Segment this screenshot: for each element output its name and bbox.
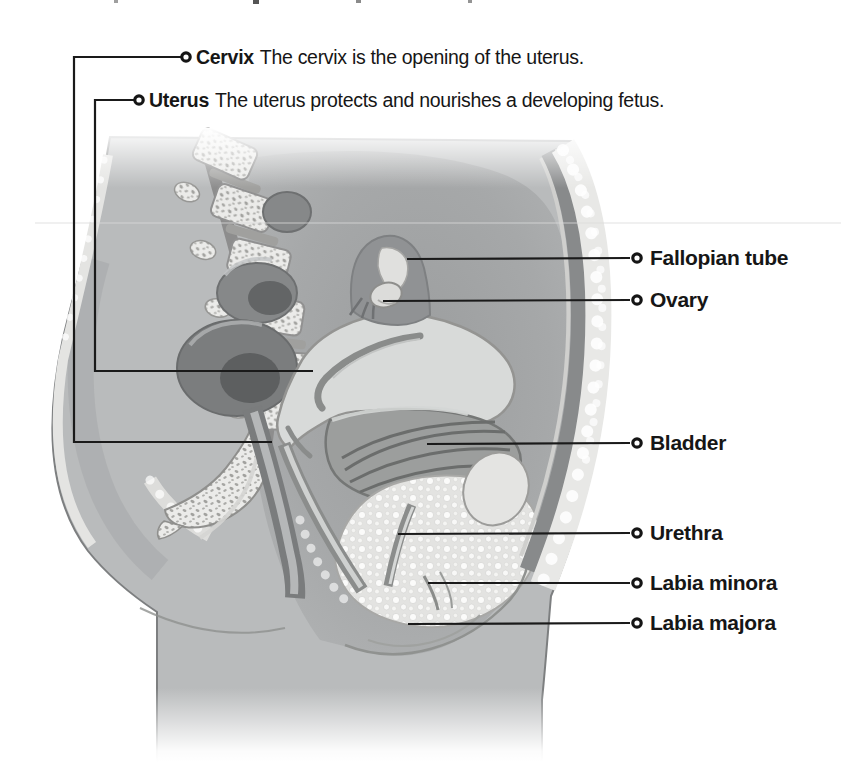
label-cervix: CervixThe cervix is the opening of the u… [196,46,584,68]
callout-lines-layer [0,0,844,775]
fallopian-tube-callout-bullet [633,254,641,262]
urethra-callout-bullet [633,529,641,537]
label-labia-majora: Labia majora [650,612,776,634]
labia-majora-callout-line [408,623,630,624]
ovary-callout-bullet [633,296,641,304]
label-urethra: Urethra [650,522,723,544]
figure-canvas: CervixThe cervix is the opening of the u… [0,0,844,775]
bladder-callout-bullet [633,439,641,447]
label-ovary: Ovary [650,289,708,311]
label-uterus-description: The uterus protects and nourishes a deve… [215,89,664,111]
label-bladder: Bladder [650,432,726,454]
label-fallopian-tube: Fallopian tube [650,247,788,269]
label-labia-minora: Labia minora [650,572,777,594]
fallopian-tube-callout-line [407,258,630,259]
labia-minora-callout-bullet [633,579,641,587]
label-uterus: UterusThe uterus protects and nourishes … [149,89,664,111]
label-uterus-term: Uterus [149,89,209,111]
uterus-callout-line [95,100,313,371]
labia-majora-callout-bullet [633,619,641,627]
uterus-callout-bullet [135,96,143,104]
cervix-callout-line [74,57,272,442]
bladder-callout-line [427,443,630,444]
ovary-callout-line [383,300,630,301]
label-cervix-description: The cervix is the opening of the uterus. [260,46,584,68]
cervix-callout-bullet [182,53,190,61]
urethra-callout-line [398,533,630,534]
cropped-text-remnants [114,0,472,4]
label-cervix-term: Cervix [196,46,254,68]
